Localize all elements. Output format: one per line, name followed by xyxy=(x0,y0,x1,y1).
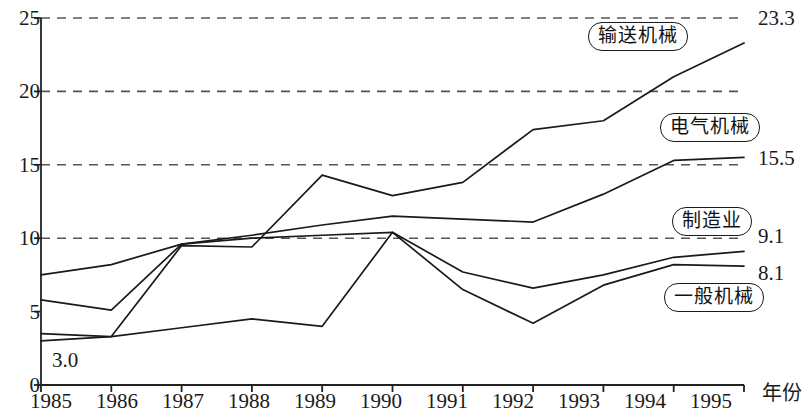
gridlines xyxy=(41,18,744,238)
series-callout-manufacturing: 制造业 xyxy=(672,207,752,236)
axis-lines xyxy=(41,18,744,385)
series-line-1 xyxy=(41,157,744,274)
xtick-label-1989: 1989 xyxy=(280,391,350,412)
series-line-3 xyxy=(41,232,744,341)
series-callout-general: 一般机械 xyxy=(664,283,764,312)
x-axis-title: 年份 xyxy=(762,383,802,403)
xtick-label-1992: 1992 xyxy=(478,391,548,412)
series-line-2 xyxy=(41,232,744,310)
series-callout-electrical: 电气机械 xyxy=(660,113,760,142)
xtick-label-1990: 1990 xyxy=(346,391,416,412)
ytick-label-10: 10 xyxy=(0,228,40,249)
ytick-label-5: 5 xyxy=(0,302,40,323)
data-series xyxy=(41,43,744,341)
xtick-label-1991: 1991 xyxy=(412,391,482,412)
xtick-label-1993: 1993 xyxy=(544,391,614,412)
ytick-label-25: 25 xyxy=(0,8,40,29)
series-line-0 xyxy=(41,43,744,337)
series-callout-transport: 输送机械 xyxy=(588,22,688,51)
xtick-label-1985: 1985 xyxy=(16,391,86,412)
end-value-manufacturing: 9.1 xyxy=(758,226,784,247)
xtick-label-1987: 1987 xyxy=(148,391,218,412)
end-value-general: 8.1 xyxy=(758,263,784,284)
xtick-label-1994: 1994 xyxy=(610,391,680,412)
end-value-transport: 23.3 xyxy=(758,8,795,29)
xtick-label-1988: 1988 xyxy=(214,391,284,412)
start-value-general: 3.0 xyxy=(52,350,78,371)
line-chart: 25 20 15 10 5 0 1985 1986 1987 1988 1989… xyxy=(0,0,807,417)
ytick-label-15: 15 xyxy=(0,155,40,176)
xtick-label-1995: 1995 xyxy=(676,391,746,412)
ytick-label-20: 20 xyxy=(0,81,40,102)
xtick-label-1986: 1986 xyxy=(82,391,152,412)
end-value-electrical: 15.5 xyxy=(758,148,795,169)
axis-ticks xyxy=(34,18,744,392)
